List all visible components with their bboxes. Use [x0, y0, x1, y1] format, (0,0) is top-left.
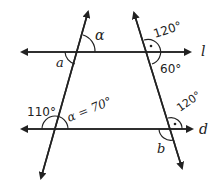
dot-bottom-right [174, 123, 177, 126]
label-60: 60° [160, 62, 181, 76]
dot-top-right [150, 45, 153, 48]
label-a: a [56, 55, 64, 70]
label-alpha-top: α [95, 27, 105, 43]
label-line-d: d [199, 121, 208, 137]
diagram-svg: α a 120° 60° l 110° α = 70° 120° b d [0, 0, 217, 190]
label-b: b [157, 141, 165, 156]
arc-top-left-upper [83, 35, 95, 52]
left-transversal [41, 12, 88, 178]
label-120-bottom: 120° [174, 89, 203, 115]
label-alpha-70: α = 70° [65, 94, 114, 125]
label-110: 110° [27, 105, 56, 119]
label-120-top: 120° [152, 19, 184, 41]
geometry-diagram: α a 120° 60° l 110° α = 70° 120° b d [0, 0, 217, 190]
label-line-l: l [201, 43, 205, 59]
